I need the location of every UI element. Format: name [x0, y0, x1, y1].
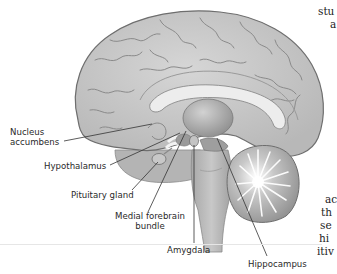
- brainstem: [191, 150, 232, 252]
- side-text-top: stu a: [318, 5, 336, 31]
- label-hippocampus: Hippocampus: [248, 259, 307, 269]
- pituitary-gland-shape: [152, 154, 166, 165]
- side-text-bottom: ac th se hi itiv: [323, 193, 337, 258]
- label-pituitary-gland: Pituitary gland: [71, 190, 134, 200]
- label-amygdala: Amygdala: [167, 245, 210, 255]
- label-nucleus-accumbens: Nucleus accumbens: [10, 127, 59, 147]
- page-rule: [0, 244, 322, 245]
- thalamus: [183, 99, 233, 137]
- label-hypothalamus: Hypothalamus: [44, 161, 106, 171]
- cerebellum: [227, 145, 299, 222]
- label-medial-forebrain-bundle: Medial forebrain bundle: [106, 211, 194, 231]
